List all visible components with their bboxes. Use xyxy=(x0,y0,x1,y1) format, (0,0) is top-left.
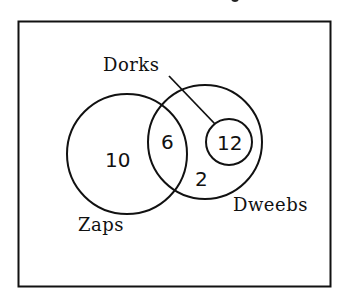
dorks-label: Dorks xyxy=(103,56,160,74)
venn-diagram xyxy=(0,0,350,298)
universe-box xyxy=(19,22,331,287)
dweebs-only-count: 2 xyxy=(195,169,208,189)
dorks-count: 12 xyxy=(217,133,242,153)
dweebs-label: Dweebs xyxy=(233,196,308,214)
zaps-dweebs-overlap-count: 6 xyxy=(161,132,174,152)
zaps-label: Zaps xyxy=(78,216,124,234)
zaps-only-count: 10 xyxy=(105,150,130,170)
dorks-leader-line xyxy=(169,76,215,124)
